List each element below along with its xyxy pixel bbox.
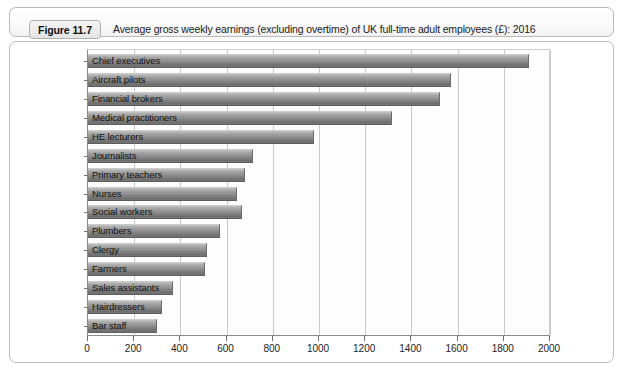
bar-row: Chief executives	[88, 54, 549, 68]
bar-category-label: Medical practitioners	[92, 111, 177, 125]
bar-row: Sales assistants	[88, 281, 549, 295]
y-tick-mark	[84, 61, 88, 62]
x-tick-mark	[272, 336, 273, 341]
y-tick-mark	[84, 80, 88, 81]
x-tick-mark	[318, 336, 319, 341]
y-tick-mark	[84, 250, 88, 251]
bar-row: Aircraft pilots	[88, 73, 549, 87]
bar-category-label: Primary teachers	[92, 168, 162, 182]
bar-category-label: Sales assistants	[92, 281, 159, 295]
figure-header-bar: Figure 11.7 Average gross weekly earning…	[9, 7, 614, 37]
bar-category-label: Aircraft pilots	[92, 73, 145, 87]
bar-category-label: Farmers	[92, 262, 127, 276]
bar-row: Nurses	[88, 187, 549, 201]
y-tick-mark	[84, 137, 88, 138]
x-tick-mark	[503, 336, 504, 341]
x-tick-mark	[410, 336, 411, 341]
bar-category-label: Bar staff	[92, 319, 126, 333]
x-tick-label: 200	[125, 343, 142, 354]
x-tick-label: 600	[217, 343, 234, 354]
y-tick-mark	[84, 269, 88, 270]
x-tick-label: 800	[263, 343, 280, 354]
y-tick-mark	[84, 175, 88, 176]
bar-row: HE lecturers	[88, 130, 549, 144]
figure-card: Figure 11.7 Average gross weekly earning…	[0, 0, 623, 372]
x-tick-label: 2000	[538, 343, 560, 354]
bar-category-label: Chief executives	[92, 54, 160, 68]
y-tick-mark	[84, 194, 88, 195]
bar-row: Social workers	[88, 205, 549, 219]
x-tick-mark	[364, 336, 365, 341]
y-tick-mark	[84, 99, 88, 100]
x-tick-mark	[133, 336, 134, 341]
x-tick-label: 1200	[353, 343, 375, 354]
x-tick-mark	[457, 336, 458, 341]
bar-category-label: Nurses	[92, 187, 122, 201]
bar-row: Clergy	[88, 243, 549, 257]
bar-category-label: Social workers	[92, 205, 152, 219]
y-tick-mark	[84, 288, 88, 289]
bar-row: Financial brokers	[88, 92, 549, 106]
y-tick-mark	[84, 326, 88, 327]
bar-category-label: HE lecturers	[92, 130, 143, 144]
x-tick-label: 1800	[492, 343, 514, 354]
bar-row: Primary teachers	[88, 168, 549, 182]
x-tick-label: 1600	[445, 343, 467, 354]
x-tick-mark	[87, 336, 88, 341]
bar-row: Hairdressers	[88, 300, 549, 314]
bar-category-label: Clergy	[92, 243, 119, 257]
figure-title: Average gross weekly earnings (excluding…	[113, 21, 536, 38]
x-tick-label: 1000	[307, 343, 329, 354]
x-tick-label: 1400	[399, 343, 421, 354]
bar-row: Farmers	[88, 262, 549, 276]
bar-category-label: Journalists	[92, 149, 136, 163]
figure-number-badge: Figure 11.7	[29, 20, 101, 39]
bar-category-label: Plumbers	[92, 224, 131, 238]
x-tick-mark	[179, 336, 180, 341]
bar-category-label: Hairdressers	[92, 300, 145, 314]
x-tick-mark	[549, 336, 550, 341]
gridline	[550, 50, 551, 335]
x-tick-label: 400	[171, 343, 188, 354]
bar-row: Journalists	[88, 149, 549, 163]
y-tick-mark	[84, 156, 88, 157]
plot-area: Chief executivesAircraft pilotsFinancial…	[87, 49, 550, 336]
y-tick-mark	[84, 212, 88, 213]
plot-wrapper: Chief executivesAircraft pilotsFinancial…	[38, 46, 542, 341]
x-tick-mark	[226, 336, 227, 341]
y-tick-mark	[84, 231, 88, 232]
x-tick-label: 0	[84, 343, 90, 354]
y-tick-mark	[84, 118, 88, 119]
y-tick-mark	[84, 307, 88, 308]
bar-row: Plumbers	[88, 224, 549, 238]
bar-row: Medical practitioners	[88, 111, 549, 125]
chart-frame: Chief executivesAircraft pilotsFinancial…	[9, 41, 614, 363]
bar-category-label: Financial brokers	[92, 92, 163, 106]
bar-row: Bar staff	[88, 319, 549, 333]
